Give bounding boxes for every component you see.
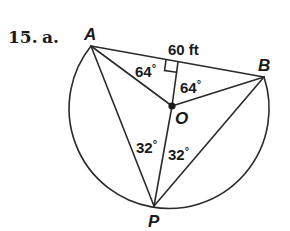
point-label-o: O	[175, 109, 188, 128]
angle-label-opb: 32°	[168, 145, 189, 163]
problem-number: 15.	[8, 27, 38, 47]
angle-label-aop: 64°	[135, 62, 156, 80]
chord-length-label: 60 ft	[168, 41, 199, 58]
chord-pb	[154, 77, 264, 206]
problem-part: a.	[42, 27, 59, 47]
circle-geometry-diagram: 15. a. A B O P 60 ft 64° 64° 32° 32°	[0, 0, 290, 231]
perpendicular-segment	[172, 62, 178, 106]
right-angle-mark	[165, 60, 177, 72]
angle-label-apo: 32°	[136, 138, 157, 156]
point-label-a: A	[83, 25, 96, 44]
point-label-p: P	[148, 212, 160, 231]
point-label-b: B	[258, 56, 270, 75]
angle-label-bop: 64°	[180, 78, 201, 96]
